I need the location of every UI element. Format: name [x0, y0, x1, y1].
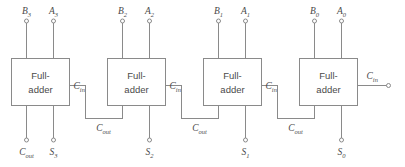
label-cin-2: Cin — [170, 81, 181, 93]
adder-label-1-line2: adder — [220, 84, 244, 95]
terminal-s2[interactable] — [148, 138, 152, 142]
adder-label-0-line1: Full- — [319, 70, 337, 81]
label-a0: A0 — [336, 6, 347, 18]
adder-label-3-line1: Full- — [31, 70, 49, 81]
label-s3: S3 — [50, 147, 59, 159]
adder-label-1-line1: Full- — [223, 70, 241, 81]
adder-label-2-line1: Full- — [127, 70, 145, 81]
terminal-a0[interactable] — [340, 19, 344, 23]
ripple-carry-adder-diagram: Full- adder Full- adder Full- adder Full… — [0, 0, 405, 167]
adder-label-2-line2: adder — [124, 84, 148, 95]
terminal-b0[interactable] — [313, 19, 317, 23]
terminal-s0[interactable] — [340, 138, 344, 142]
label-b1: B1 — [214, 6, 223, 18]
label-cout-final: Cout — [19, 147, 34, 159]
terminal-b3[interactable] — [25, 19, 29, 23]
label-s0: S0 — [338, 147, 347, 159]
adder-body-1[interactable] — [204, 59, 262, 106]
label-cin-3: Cin — [74, 81, 85, 93]
label-external-cin: Cin — [367, 71, 378, 83]
terminal-cout-final[interactable] — [25, 138, 29, 142]
terminal-a1[interactable] — [244, 19, 248, 23]
label-cin-1: Cin — [266, 81, 277, 93]
adder-label-0-line2: adder — [316, 84, 340, 95]
label-b2: B2 — [118, 6, 128, 18]
terminal-external-cin[interactable] — [387, 84, 391, 88]
terminal-s3[interactable] — [52, 138, 56, 142]
label-a2: A2 — [144, 6, 155, 18]
terminal-a3[interactable] — [52, 19, 56, 23]
terminal-s1[interactable] — [244, 138, 248, 142]
adder-body-3[interactable] — [12, 59, 70, 106]
label-s1: S1 — [242, 147, 250, 159]
label-cout-1: Cout — [192, 123, 207, 135]
label-b0: B0 — [310, 6, 320, 18]
label-b3: B3 — [22, 6, 32, 18]
label-cout-2: Cout — [96, 123, 111, 135]
adder-body-2[interactable] — [108, 59, 166, 106]
terminal-a2[interactable] — [148, 19, 152, 23]
adder-label-3-line2: adder — [28, 84, 52, 95]
label-a1: A1 — [240, 6, 250, 18]
label-a3: A3 — [48, 6, 59, 18]
adder-body-0[interactable] — [300, 59, 358, 106]
label-cout-0: Cout — [288, 123, 303, 135]
terminal-b1[interactable] — [217, 19, 221, 23]
label-s2: S2 — [146, 147, 155, 159]
terminal-b2[interactable] — [121, 19, 125, 23]
